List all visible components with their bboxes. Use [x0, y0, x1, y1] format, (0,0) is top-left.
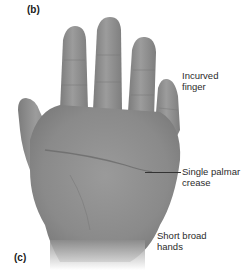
panel-label-b: (b) — [27, 4, 40, 15]
leader-line-crease — [145, 172, 181, 173]
index-finger — [60, 26, 88, 110]
annotation-incurved-finger: Incurved finger — [182, 70, 250, 92]
annotation-single-palmar-crease: Single palmar crease — [182, 166, 250, 188]
figure: (b) (c) Incurved finger Single palmar cr… — [0, 0, 250, 274]
ring-finger — [128, 37, 156, 118]
annotation-short-broad-hands: Short broad hands — [157, 230, 227, 252]
panel-label-c: (c) — [14, 252, 26, 263]
middle-finger — [93, 17, 122, 110]
